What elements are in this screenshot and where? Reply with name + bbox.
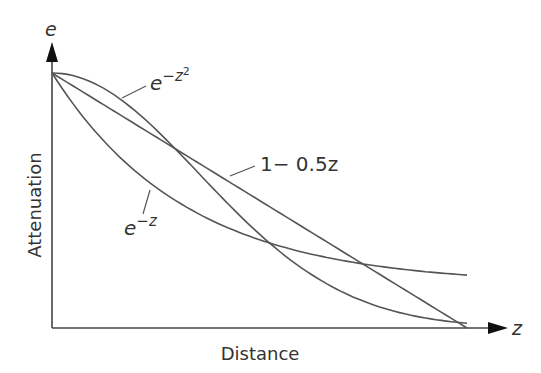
label-exp: e−z: [124, 212, 158, 240]
chart: e z Distance Attenuation e−z2 1− 0.5z e−…: [0, 0, 541, 373]
curves: [52, 73, 467, 328]
x-axis-arrow-icon: [488, 322, 508, 334]
label-gauss: e−z2: [150, 65, 190, 95]
leader-gauss: [122, 86, 146, 98]
leader-linear: [230, 166, 255, 176]
y-axis-arrow-icon: [46, 42, 58, 62]
curve-linear: [52, 73, 467, 328]
label-linear: 1− 0.5z: [260, 152, 338, 176]
y-axis-label: Attenuation: [24, 152, 45, 258]
y-axis-symbol: e: [45, 18, 57, 40]
leader-exp: [143, 190, 150, 214]
x-axis-symbol: z: [511, 317, 523, 339]
x-axis-label: Distance: [221, 343, 300, 364]
